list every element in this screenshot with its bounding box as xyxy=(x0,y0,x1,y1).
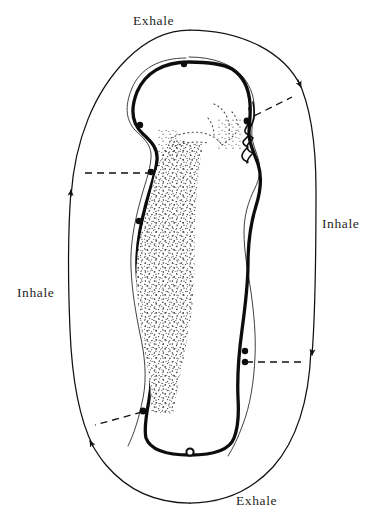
breath-diagram: Exhale Inhale Inhale Exhale xyxy=(0,0,380,522)
marker-face xyxy=(244,118,251,125)
marker-occiput xyxy=(137,122,143,128)
marker-abdomen-upper xyxy=(242,348,248,354)
face-profile xyxy=(242,102,254,163)
marker-mid-back xyxy=(136,218,143,225)
marker-base xyxy=(186,448,193,455)
breath-arc-right-lower xyxy=(190,350,311,503)
label-inhale-left: Inhale xyxy=(17,286,54,300)
diagram-canvas xyxy=(0,0,380,522)
breath-arc-left-lower xyxy=(69,190,93,446)
marker-abdomen-lower xyxy=(242,359,248,365)
label-exhale-top: Exhale xyxy=(133,14,174,28)
label-exhale-bottom: Exhale xyxy=(236,494,277,508)
breath-arc-right-upper xyxy=(298,80,316,355)
connector-sacrum xyxy=(95,412,142,425)
marker-shoulder xyxy=(148,169,155,176)
marker-crown xyxy=(181,61,187,67)
spine-stipple xyxy=(120,125,220,425)
marker-sacrum xyxy=(140,408,147,415)
label-inhale-right: Inhale xyxy=(322,217,359,231)
breath-arc-bottom-left xyxy=(90,441,190,503)
